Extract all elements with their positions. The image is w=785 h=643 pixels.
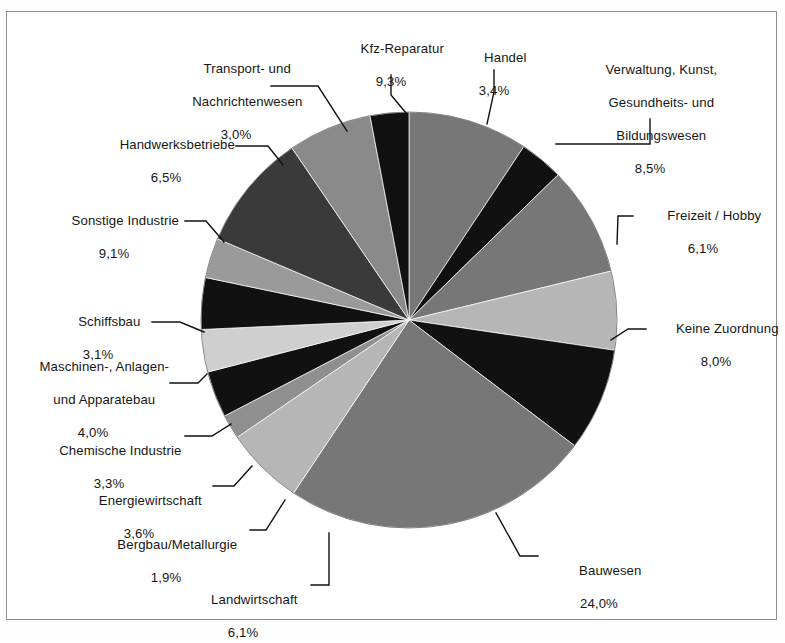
label-handwerk-line1: Handwerksbetriebe — [120, 137, 235, 152]
label-verwaltung: Verwaltung, Kunst, Gesundheits- und Bild… — [549, 45, 751, 210]
label-sonstige-pct: 9,1% — [40, 246, 188, 263]
label-energie-line1: Energiewirtschaft — [99, 493, 202, 508]
label-maschinen-line1: Maschinen-, Anlagen- — [40, 359, 170, 374]
label-verwaltung-pct: 8,5% — [549, 161, 751, 178]
label-keine-pct: 8,0% — [648, 354, 784, 371]
leader-line-chemie — [185, 424, 231, 436]
label-landwirt: Landwirtschaft 6,1% — [173, 575, 313, 643]
label-verwaltung-line3: Bildungswesen — [616, 128, 706, 143]
leader-line-freizeit — [617, 216, 633, 244]
label-handwerk-pct: 6,5% — [92, 170, 240, 187]
label-transport-line1: Transport- und — [203, 61, 290, 76]
leader-line-maschinen — [170, 374, 207, 383]
label-freizeit: Freizeit / Hobby 6,1% — [633, 191, 773, 290]
label-transport-line2: Nachrichtenwesen — [192, 94, 302, 109]
label-maschinen-line2: und Apparatebau — [53, 392, 155, 407]
label-handel: Handel 3,4% — [440, 33, 548, 132]
label-landwirt-pct: 6,1% — [173, 625, 313, 642]
label-bauwesen-pct: 24,0% — [540, 596, 658, 613]
label-verwaltung-line2: Gesundheits- und — [608, 95, 714, 110]
label-sonstige: Sonstige Industrie 9,1% — [40, 196, 188, 295]
leader-line-bauwesen — [496, 513, 538, 556]
label-handel-line1: Handel — [484, 50, 526, 65]
label-schiffsbau-line1: Schiffsbau — [78, 314, 140, 329]
label-keine-line1: Keine Zuordnung — [676, 321, 779, 336]
leader-line-bergbau — [250, 500, 285, 530]
leader-line-schiffsbau — [152, 322, 204, 332]
label-landwirt-line1: Landwirtschaft — [211, 592, 297, 607]
label-verwaltung-line1: Verwaltung, Kunst, — [605, 62, 717, 77]
label-freizeit-line1: Freizeit / Hobby — [667, 208, 761, 223]
label-bauwesen-line1: Bauwesen — [579, 563, 641, 578]
label-handel-pct: 3,4% — [440, 83, 548, 100]
label-bergbau-line1: Bergbau/Metallurgie — [117, 537, 237, 552]
leader-line-energie — [213, 466, 252, 486]
label-freizeit-pct: 6,1% — [633, 241, 773, 258]
label-chemie-line1: Chemische Industrie — [59, 443, 181, 458]
leader-line-landwirt — [311, 533, 329, 585]
label-kfz-line1: Kfz-Reparatur — [361, 41, 444, 56]
label-bauwesen: Bauwesen 24,0% — [540, 546, 658, 643]
label-keine: Keine Zuordnung 8,0% — [648, 304, 784, 403]
label-sonstige-line1: Sonstige Industrie — [72, 213, 179, 228]
